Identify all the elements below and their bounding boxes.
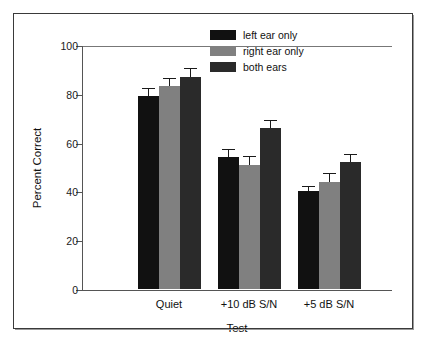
y-tick-label: 60 [66,138,78,150]
error-bar-cap [243,156,256,157]
error-bar-cap [302,186,315,187]
bar-group [298,45,361,289]
error-bar-line [169,79,170,86]
error-bar-line [329,174,330,181]
error-bar-cap [323,173,336,174]
error-bar-cap [184,68,197,69]
bar-rect [298,191,319,289]
y-axis-title: Percent Correct [31,128,43,209]
y-tick-label: 100 [60,40,78,52]
bar-rect [239,165,260,289]
y-tick-label: 40 [66,186,78,198]
legend-swatch [210,62,236,72]
bar-rect [159,86,180,289]
error-bar-cap [344,154,357,155]
legend-swatch [210,46,236,56]
error-bar-cap [142,88,155,89]
chart-legend: left ear onlyright ear onlyboth ears [210,28,330,76]
legend-label: both ears [243,61,287,73]
x-tick-label: Quiet [156,298,182,310]
error-bar-line [228,150,229,157]
legend-item[interactable]: both ears [210,60,330,74]
bar-rect [340,162,361,289]
error-bar-line [249,157,250,164]
y-tick-label: 80 [66,89,78,101]
x-tick-label: +10 dB S/N [221,298,278,310]
y-tick-label: 20 [66,235,78,247]
error-bar-line [270,121,271,128]
bar-rect [138,96,159,289]
error-bar-line [308,187,309,192]
error-bar-line [148,89,149,96]
bar-rect [180,77,201,289]
error-bar-cap [264,120,277,121]
figure-frame: 020406080100 Percent Correct Quiet+10 dB… [13,13,413,329]
plot-area: 020406080100 Percent Correct Quiet+10 dB… [82,46,392,290]
y-tick-label: 0 [72,284,78,296]
bar-rect [260,128,281,289]
error-bar-line [350,155,351,162]
y-axis-line [82,46,83,291]
x-axis-title: Test [226,322,247,334]
legend-item[interactable]: right ear only [210,44,330,58]
error-bar-cap [222,149,235,150]
x-tick-label: +5 dB S/N [304,298,354,310]
bar-group [138,45,201,289]
legend-label: right ear only [243,45,304,57]
bar-rect [319,182,340,289]
figure-canvas: 020406080100 Percent Correct Quiet+10 dB… [0,0,430,346]
bar-group [218,45,281,289]
x-axis-line [82,290,392,291]
bar-rect [218,157,239,289]
error-bar-line [190,69,191,76]
error-bar-cap [163,78,176,79]
legend-swatch [210,30,236,40]
legend-item[interactable]: left ear only [210,28,330,42]
legend-label: left ear only [243,29,297,41]
